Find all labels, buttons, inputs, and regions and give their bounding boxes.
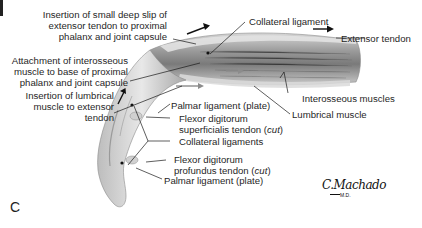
label-collateral-ligament: Collateral ligament	[249, 16, 328, 27]
label-collateral-ligaments: Collateral ligaments	[179, 136, 263, 147]
label-line: Flexor digitorum	[174, 154, 271, 165]
finger-anatomy-figure: Insertion of small deep slip of extensor…	[0, 0, 422, 228]
label-line: muscle to extensor	[12, 101, 114, 112]
artist-signature: C.Machado	[322, 178, 386, 192]
label-line: Attachment of interosseous	[10, 55, 128, 66]
label-line: phalanx and joint capsule	[10, 77, 128, 88]
label-line: phalanx and joint capsule	[40, 31, 167, 42]
label-line: Insertion of small deep slip of	[40, 9, 167, 20]
signature-underline	[330, 194, 340, 195]
label-line: extensor tendon to proximal	[40, 20, 167, 31]
label-line: superficialis tendon (cut)	[179, 124, 283, 135]
label-line: muscle to base of proximal	[10, 66, 128, 77]
label-palmar-ligament-lower: Palmar ligament (plate)	[164, 175, 263, 186]
label-lumbrical-muscle: Lumbrical muscle	[292, 109, 367, 120]
label-insertion-deep-slip: Insertion of small deep slip of extensor…	[40, 9, 167, 42]
label-attachment-interosseous: Attachment of interosseous muscle to bas…	[10, 55, 128, 88]
label-insertion-lumbrical: Insertion of lumbrical muscle to extenso…	[12, 90, 114, 123]
signature-suffix: M.D.	[340, 192, 351, 198]
label-interosseous-muscles: Interosseous muscles	[302, 93, 395, 104]
label-fds-tendon: Flexor digitorum superficialis tendon (c…	[179, 113, 283, 135]
label-palmar-ligament-upper: Palmar ligament (plate)	[171, 100, 270, 111]
label-italic: cut	[267, 124, 280, 135]
label-line: Insertion of lumbrical	[12, 90, 114, 101]
label-extensor-tendon: Extensor tendon	[341, 33, 411, 44]
label-line: tendon	[12, 112, 114, 123]
label-fdp-tendon: Flexor digitorum profundus tendon (cut)	[174, 154, 271, 176]
panel-letter: C	[10, 199, 20, 215]
label-line: Flexor digitorum	[179, 113, 283, 124]
label-text: superficialis tendon	[179, 124, 261, 135]
